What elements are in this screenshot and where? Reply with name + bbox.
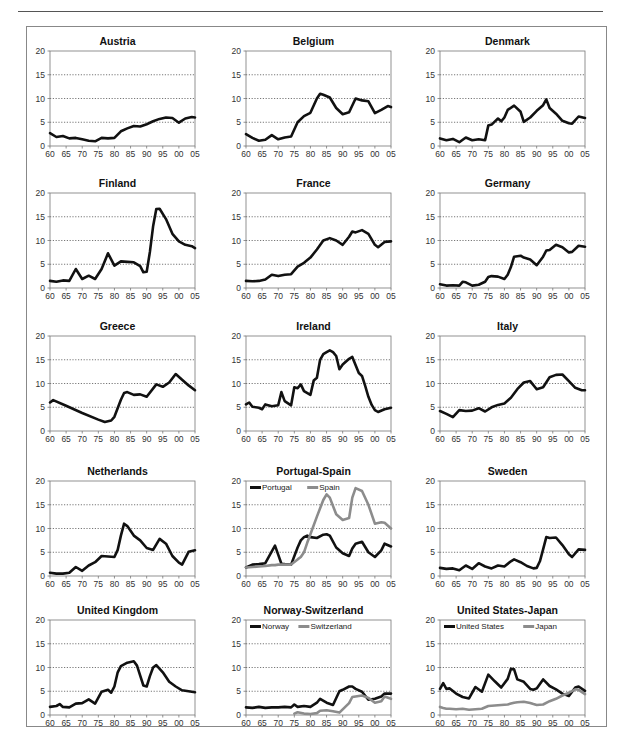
x-tick-label: 85: [516, 149, 526, 159]
y-tick-label: 5: [430, 547, 435, 557]
x-tick-label: 00: [564, 149, 574, 159]
x-tick-label: 95: [158, 579, 168, 589]
x-tick-label: 00: [370, 434, 380, 444]
y-tick-label: 10: [36, 94, 46, 104]
y-tick-label: 20: [426, 476, 436, 486]
x-tick-label: 65: [61, 434, 71, 444]
x-tick-label: 85: [322, 718, 332, 728]
x-tick-label: 80: [500, 579, 510, 589]
y-tick-label: 15: [426, 212, 436, 222]
x-tick-label: 05: [386, 579, 396, 589]
x-tick-label: 80: [306, 149, 316, 159]
line-chart: 0510152060657075808590950005PortugalSpai…: [226, 465, 416, 605]
x-tick-label: 75: [484, 579, 494, 589]
series-line-belgium: [246, 94, 391, 141]
x-tick-label: 65: [451, 291, 461, 301]
x-tick-label: 95: [158, 291, 168, 301]
x-tick-label: 75: [94, 434, 104, 444]
chart-panel-united-states-japan: United States-Japan051015206065707580859…: [420, 604, 610, 739]
chart-panel-ireland: Ireland0510152060657075808590950005: [226, 320, 416, 460]
x-tick-label: 05: [580, 718, 590, 728]
x-tick-label: 05: [386, 718, 396, 728]
y-tick-label: 10: [232, 379, 242, 389]
line-chart: 0510152060657075808590950005: [30, 177, 220, 317]
x-tick-label: 70: [273, 291, 283, 301]
x-tick-label: 00: [174, 718, 184, 728]
x-tick-label: 85: [516, 434, 526, 444]
x-tick-label: 70: [467, 291, 477, 301]
x-tick-label: 95: [354, 718, 364, 728]
x-tick-label: 65: [451, 434, 461, 444]
x-tick-label: 70: [467, 149, 477, 159]
x-tick-label: 05: [580, 291, 590, 301]
x-tick-label: 90: [532, 434, 542, 444]
x-tick-label: 65: [451, 718, 461, 728]
x-tick-label: 60: [435, 718, 445, 728]
x-tick-label: 05: [580, 434, 590, 444]
y-tick-label: 20: [426, 615, 436, 625]
x-tick-label: 80: [110, 579, 120, 589]
x-tick-label: 85: [516, 718, 526, 728]
series-line-france: [246, 230, 391, 281]
x-tick-label: 60: [45, 149, 55, 159]
x-tick-label: 60: [435, 149, 445, 159]
x-tick-label: 60: [241, 291, 251, 301]
x-tick-label: 00: [174, 149, 184, 159]
x-tick-label: 90: [142, 434, 152, 444]
y-tick-label: 20: [232, 331, 242, 341]
x-tick-label: 65: [61, 718, 71, 728]
x-tick-label: 75: [94, 579, 104, 589]
chart-panel-denmark: Denmark0510152060657075808590950005: [420, 35, 610, 175]
y-tick-label: 5: [430, 117, 435, 127]
series-line-finland: [50, 209, 195, 282]
x-tick-label: 75: [484, 434, 494, 444]
y-tick-label: 20: [426, 331, 436, 341]
x-tick-label: 80: [500, 291, 510, 301]
line-chart: 0510152060657075808590950005: [420, 320, 610, 460]
line-chart: 0510152060657075808590950005United State…: [420, 604, 610, 739]
y-tick-label: 20: [232, 476, 242, 486]
x-tick-label: 80: [110, 149, 120, 159]
chart-panel-belgium: Belgium0510152060657075808590950005: [226, 35, 416, 175]
x-tick-label: 90: [532, 718, 542, 728]
x-tick-label: 65: [61, 291, 71, 301]
chart-panel-norway-switzerland: Norway-Switzerland0510152060657075808590…: [226, 604, 416, 739]
y-tick-label: 10: [36, 663, 46, 673]
x-tick-label: 90: [142, 291, 152, 301]
legend-label: United States: [456, 622, 504, 631]
x-tick-label: 65: [257, 579, 267, 589]
y-tick-label: 15: [232, 70, 242, 80]
x-tick-label: 90: [338, 434, 348, 444]
x-tick-label: 70: [467, 579, 477, 589]
x-tick-label: 95: [548, 579, 558, 589]
y-tick-label: 5: [236, 117, 241, 127]
x-tick-label: 90: [142, 579, 152, 589]
x-tick-label: 00: [370, 579, 380, 589]
legend-label: Norway: [262, 622, 289, 631]
line-chart: 0510152060657075808590950005: [30, 35, 220, 175]
x-tick-label: 75: [484, 718, 494, 728]
x-tick-label: 75: [290, 291, 300, 301]
y-tick-label: 15: [232, 500, 242, 510]
y-tick-label: 15: [36, 70, 46, 80]
y-tick-label: 10: [36, 524, 46, 534]
x-tick-label: 65: [257, 434, 267, 444]
x-tick-label: 80: [306, 291, 316, 301]
line-chart: 0510152060657075808590950005: [30, 604, 220, 739]
x-tick-label: 85: [322, 291, 332, 301]
y-tick-label: 5: [430, 402, 435, 412]
x-tick-label: 65: [451, 149, 461, 159]
x-tick-label: 90: [532, 579, 542, 589]
x-tick-label: 85: [126, 718, 136, 728]
x-tick-label: 70: [77, 434, 87, 444]
x-tick-label: 95: [158, 718, 168, 728]
x-tick-label: 75: [484, 291, 494, 301]
y-tick-label: 5: [40, 402, 45, 412]
x-tick-label: 05: [580, 149, 590, 159]
x-tick-label: 75: [290, 579, 300, 589]
x-tick-label: 95: [354, 149, 364, 159]
y-tick-label: 20: [36, 331, 46, 341]
series-line-denmark: [440, 99, 585, 142]
y-tick-label: 15: [426, 70, 436, 80]
x-tick-label: 65: [257, 149, 267, 159]
